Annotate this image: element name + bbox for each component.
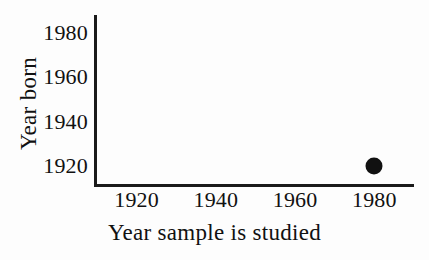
x-tick-label: 1980 <box>352 189 397 211</box>
chart-figure: 1920194019601980 1920194019601980 Year s… <box>0 0 429 260</box>
x-tick-label: 1960 <box>273 189 318 211</box>
data-point <box>366 158 383 175</box>
y-axis-title: Year born <box>17 24 40 184</box>
y-tick-label: 1960 <box>43 66 88 88</box>
x-tick-label: 1940 <box>193 189 238 211</box>
x-axis-tick-labels: 1920194019601980 <box>0 189 429 219</box>
x-tick-label: 1920 <box>114 189 159 211</box>
y-tick-label: 1920 <box>43 155 88 177</box>
x-axis-title: Year sample is studied <box>0 221 429 244</box>
y-tick-label: 1940 <box>43 111 88 133</box>
plot-area <box>97 15 414 184</box>
y-tick-label: 1980 <box>43 22 88 44</box>
